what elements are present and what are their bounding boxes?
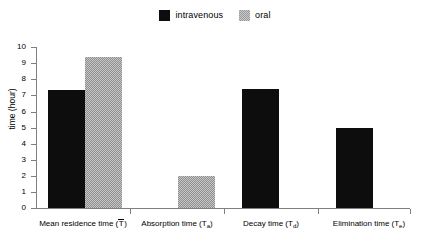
bar-decay-intravenous [242,89,279,208]
y-tick-label-8: 8 [0,75,26,83]
legend-entry-oral: oral [239,10,270,21]
x-tick-sep-4 [410,209,411,214]
legend-label-oral: oral [255,10,270,21]
x-tick-sep-3 [318,209,319,214]
legend-label-intravenous: intravenous [175,10,223,21]
y-tick-label-9: 9 [0,59,26,67]
x-category-label-mean-residence-time: Mean residence time (T) [36,219,130,229]
legend-entry-intravenous: intravenous [159,10,223,21]
x-tick-sep-2 [224,209,225,214]
y-tick-label-5: 5 [0,124,26,132]
plot-area [36,47,411,208]
y-tick-label-4: 4 [0,140,26,148]
bar-chart-figure: intravenous oral time (hour) 10 9 8 7 6 … [0,0,430,243]
y-tick-label-7: 7 [0,91,26,99]
x-category-label-absorption-time: Absorption time (Ta) [130,219,224,229]
legend-swatch-intravenous-icon [159,10,170,21]
bar-elimination-intravenous [336,128,373,208]
x-axis-baseline [36,208,410,209]
y-tick-label-3: 3 [0,156,26,164]
bar-mean-residence-intravenous [48,90,85,208]
bar-mean-residence-oral [85,57,122,208]
chart-legend: intravenous oral [0,7,430,23]
x-category-label-decay-time: Decay time (Td) [224,219,318,229]
y-tick-label-10: 10 [0,43,26,51]
bar-absorption-oral [178,176,215,208]
x-category-label-elimination-time: Elimination time (Te) [318,219,420,229]
legend-swatch-oral-icon [239,10,250,21]
y-tick-label-2: 2 [0,172,26,180]
y-tick-label-6: 6 [0,108,26,116]
x-tick-sep-1 [130,209,131,214]
y-tick-0 [31,208,36,209]
y-tick-label-1: 1 [0,188,26,196]
y-tick-label-0: 0 [0,204,26,212]
